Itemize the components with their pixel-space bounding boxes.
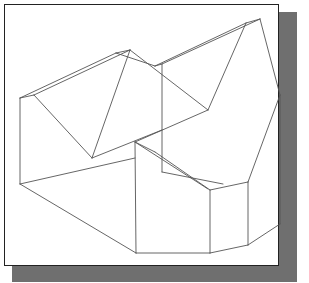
edge-line <box>92 50 130 158</box>
edge-line <box>135 142 208 189</box>
edge-line <box>20 184 136 253</box>
edge-line <box>116 50 130 53</box>
edge-line <box>155 152 210 190</box>
wireframe-drawing <box>0 0 309 283</box>
edge-line <box>210 245 248 253</box>
edge-line <box>162 19 260 64</box>
edge-line <box>208 23 246 110</box>
edge-line <box>20 53 116 98</box>
edge-line <box>210 182 248 190</box>
edge-line <box>248 224 280 245</box>
edge-line <box>135 142 155 152</box>
edge-line <box>34 95 92 158</box>
edge-line <box>260 19 280 95</box>
edge-line <box>20 158 135 184</box>
edge-line <box>135 110 208 142</box>
edge-line <box>92 130 162 158</box>
edge-line <box>155 23 246 66</box>
edge-line <box>248 95 280 182</box>
edge-line <box>34 50 130 95</box>
edge-line <box>135 142 136 253</box>
edge-line <box>116 53 155 66</box>
wireframe-edges <box>20 19 280 253</box>
edge-line <box>20 95 34 98</box>
